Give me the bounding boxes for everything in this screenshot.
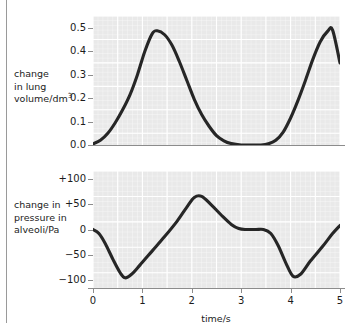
alveolar-pressure-y-tick-mark	[88, 230, 93, 231]
lung-volume-y-tick-mark	[88, 28, 93, 29]
time-axis-tick-mark	[291, 288, 292, 293]
lung-volume-y-tick-mark	[88, 122, 93, 123]
time-axis-tick-label: 5	[330, 296, 350, 306]
lung-volume-y-tick-label: 0.5	[56, 23, 86, 33]
alveolar-pressure-y-tick-mark	[88, 179, 93, 180]
lung-volume-y-tick-mark	[88, 98, 93, 99]
time-axis-tick-label: 4	[281, 296, 301, 306]
alveolar-pressure-curve	[93, 171, 340, 288]
alveolar-pressure-x-axis	[88, 288, 345, 289]
lung-volume-y-tick-mark	[88, 145, 93, 146]
alveolar-pressure-y-tick-mark	[88, 204, 93, 205]
lung-volume-y-tick-label: 0.0	[56, 140, 86, 150]
alveolar-pressure-axis-title-line-3: alveoli/Pa	[14, 224, 59, 235]
lung-volume-y-tick-mark	[88, 51, 93, 52]
time-axis-tick-label: 3	[231, 296, 251, 306]
respiration-graphs-figure: 0.00.10.20.30.40.5 change in lung volume…	[0, 0, 355, 323]
lung-volume-axis-title-line-3: volume/dm	[14, 93, 68, 104]
alveolar-pressure-plot-area	[93, 171, 340, 288]
alveolar-pressure-axis-title-line-1: change in	[14, 199, 61, 210]
lung-volume-axis-title-line-2: in lung	[14, 81, 46, 92]
time-axis-tick-mark	[93, 288, 94, 293]
time-axis-title: time/s	[176, 313, 256, 323]
time-axis-tick-mark	[340, 288, 341, 293]
alveolar-pressure-axis-title: change in pressure in alveoli/Pa	[14, 199, 88, 237]
alveolar-pressure-axis-title-line-2: pressure in	[14, 212, 67, 223]
time-axis-tick-mark	[192, 288, 193, 293]
alveolar-pressure-y-tick-mark	[88, 280, 93, 281]
lung-volume-curve	[93, 16, 340, 145]
lung-volume-axis-title-line-1: change	[14, 68, 49, 79]
lung-volume-chart: 0.00.10.20.30.40.5 change in lung volume…	[0, 0, 355, 160]
lung-volume-y-tick-mark	[88, 75, 93, 76]
time-axis-tick-mark	[241, 288, 242, 293]
time-axis-tick-mark	[142, 288, 143, 293]
alveolar-pressure-y-tick-label: −50	[48, 250, 86, 260]
lung-volume-axis-title-superscript: 3	[68, 92, 72, 100]
lung-volume-x-axis	[88, 145, 345, 146]
lung-volume-plot-area	[93, 16, 340, 145]
alveolar-pressure-chart: +100+500−50−100 012345 change in pressur…	[0, 155, 355, 323]
lung-volume-y-tick-label: 0.4	[56, 46, 86, 56]
alveolar-pressure-y-tick-mark	[88, 255, 93, 256]
time-axis-tick-label: 2	[182, 296, 202, 306]
lung-volume-y-tick-label: 0.1	[56, 117, 86, 127]
time-axis-tick-label: 0	[83, 296, 103, 306]
alveolar-pressure-y-tick-label: −100	[48, 275, 86, 285]
lung-volume-axis-title: change in lung volume/dm3	[14, 68, 88, 106]
time-axis-tick-label: 1	[132, 296, 152, 306]
alveolar-pressure-y-tick-label: +100	[48, 174, 86, 184]
